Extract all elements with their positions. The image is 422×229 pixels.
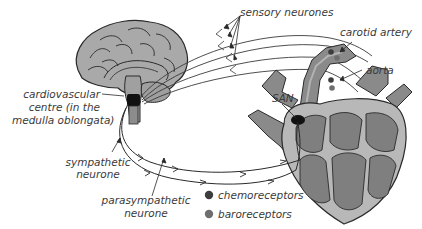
chemoreceptor-legend-dot (205, 191, 213, 199)
san-label: SAN (272, 92, 294, 104)
sympathetic-neurone-label-1: sympathetic (58, 156, 138, 168)
parasympathetic-neurone-label-2: neurone (98, 207, 194, 219)
diagram-canvas: sensory neurones carotid artery aorta SA… (0, 0, 422, 229)
sensory-neurones-label: sensory neurones (240, 6, 333, 18)
cardiovascular-centre-label-1: cardiovascular (0, 88, 100, 100)
cardiovascular-centre-label-2: centre (in the (0, 101, 100, 113)
legend-baroreceptors: baroreceptors (218, 208, 292, 220)
cardiovascular-centre-marker (127, 94, 140, 106)
sympathetic-neurone-label-2: neurone (58, 168, 138, 180)
aorta-label: aorta (366, 64, 394, 76)
baroreceptor-legend-dot (205, 210, 213, 218)
parasympathetic-neurone-label-1: parasympathetic (98, 194, 194, 206)
legend-chemoreceptors: chemoreceptors (218, 189, 304, 201)
motor-neurones (120, 104, 300, 185)
carotid-artery-label: carotid artery (340, 26, 412, 38)
cardiovascular-centre-label-3: medulla oblongata) (12, 114, 114, 126)
